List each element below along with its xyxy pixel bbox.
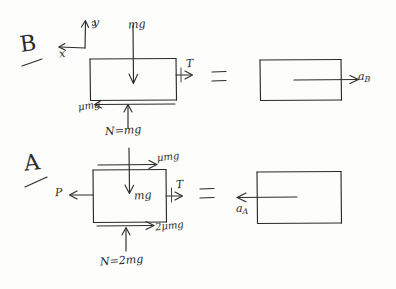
sketch-strokes <box>0 0 396 289</box>
case-a-top-friction-arrow <box>98 161 157 169</box>
case-b-tension-label: T <box>186 58 194 69</box>
case-label-a: A <box>23 151 41 175</box>
case-a-underline <box>25 177 47 187</box>
case-a-equals <box>200 189 214 199</box>
case-b-tension-arrow <box>176 68 193 82</box>
axis-label-y: y <box>93 17 100 28</box>
case-b-acceleration-arrow <box>294 76 359 84</box>
case-b-normal-label: N=mg <box>105 124 142 138</box>
case-b-equals <box>212 72 226 82</box>
case-b-acceleration-label: aB <box>358 71 370 84</box>
coordinate-axes <box>59 21 96 51</box>
case-b-accel-subscript: B <box>365 75 371 84</box>
case-a-acceleration-label: aA <box>236 203 248 216</box>
case-a-weight-arrow <box>125 148 134 194</box>
case-b-underline <box>22 59 42 66</box>
case-a-normal-arrow <box>122 228 130 252</box>
free-body-diagram-canvas: y x B mg T μmg N=mg aB A μmg mg P T 2μmg… <box>0 0 396 289</box>
axis-label-x: x <box>58 48 66 60</box>
case-b-weight-label: mg <box>128 18 146 30</box>
case-a-normal-label: N=2mg <box>100 254 144 268</box>
case-a-accel-subscript: A <box>243 207 249 216</box>
case-b-friction-arrow <box>95 101 176 109</box>
case-b-weight-arrow <box>129 25 138 84</box>
case-a-weight-label: mg <box>134 189 152 201</box>
case-label-b: B <box>19 32 38 56</box>
case-a-applied-label: P <box>55 187 63 198</box>
case-a-applied-arrow <box>70 191 94 199</box>
case-a-tension-label: T <box>176 179 184 190</box>
case-a-acceleration-arrow <box>237 193 297 202</box>
